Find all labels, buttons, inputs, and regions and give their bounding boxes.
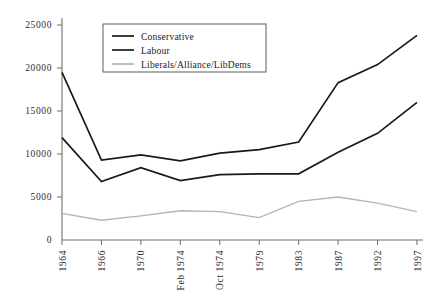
x-tick-label: Feb 1974 [176,250,186,290]
legend-label-2: Liberals/Alliance/LibDems [141,59,251,70]
x-tick-label: 1970 [136,250,146,271]
line-chart: 0500010000150002000025000 196419661970Fe… [0,0,436,304]
x-tick-label: 1983 [294,250,304,271]
chart-canvas: 0500010000150002000025000 196419661970Fe… [0,0,436,304]
y-tick-label: 0 [47,235,52,245]
series-line-1 [62,102,417,181]
chart-legend: ConservativeLabourLiberals/Alliance/LibD… [103,24,266,72]
y-tick-label: 15000 [25,106,52,116]
x-axis: 196419661970Feb 1974Oct 1974197919831987… [58,240,423,290]
y-axis: 0500010000150002000025000 [25,18,62,245]
series-line-2 [62,197,417,220]
legend-label-1: Labour [141,45,171,56]
y-tick-label: 25000 [25,20,52,30]
x-tick-label: 1964 [58,250,68,271]
x-tick-label: 1997 [413,250,423,271]
x-tick-label: 1979 [255,250,265,271]
x-tick-label: 1992 [373,250,383,271]
y-tick-label: 5000 [31,192,52,202]
legend-label-0: Conservative [141,31,194,42]
x-tick-label: Oct 1974 [215,250,225,290]
x-tick-label: 1966 [97,250,107,271]
y-tick-label: 10000 [25,149,52,159]
x-tick-label: 1987 [334,250,344,271]
y-tick-label: 20000 [25,63,52,73]
